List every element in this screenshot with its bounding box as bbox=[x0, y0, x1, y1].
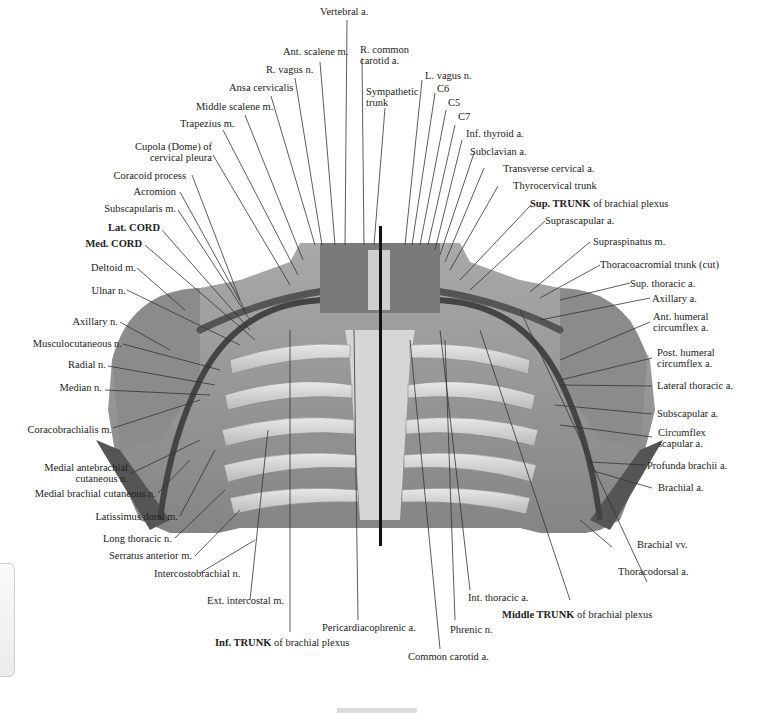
label-profunda-brachii-a: Profunda brachii a. bbox=[647, 460, 727, 472]
label-lateral-thoracic-a: Lateral thoracic a. bbox=[657, 380, 733, 392]
label-axillary-n: Axillary n. bbox=[50, 316, 118, 328]
label-subscapularis-m: Subscapularis m. bbox=[80, 203, 176, 215]
label-phrenic-n: Phrenic n. bbox=[450, 624, 493, 636]
label-ext-intercostal-m: Ext. intercostal m. bbox=[207, 595, 284, 607]
label-r-common-carotid-a: R. common carotid a. bbox=[360, 44, 409, 66]
label-sup-trunk: Sup. TRUNK of brachial plexus bbox=[530, 198, 668, 210]
label-common-carotid-a: Common carotid a. bbox=[408, 651, 489, 663]
label-thoracoacromial-trunk: Thoracoacromial trunk (cut) bbox=[600, 259, 719, 271]
label-ansa-cervicalis: Ansa cervicalis bbox=[229, 82, 293, 94]
label-middle-scalene-m: Middle scalene m. bbox=[196, 101, 273, 113]
label-ant-humeral-circumflex-a: Ant. humeral circumflex a. bbox=[653, 311, 708, 333]
label-deltoid-m: Deltoid m. bbox=[70, 262, 136, 274]
label-suprascapular-a: Suprascapular a. bbox=[545, 215, 614, 227]
label-transverse-cervical-a: Transverse cervical a. bbox=[503, 163, 594, 175]
label-med-cord: Med. CORD bbox=[70, 238, 142, 250]
label-coracoid-process: Coracoid process bbox=[80, 170, 186, 182]
label-medial-brachial-cutaneous-n: Medial brachial cutaneous n. bbox=[20, 488, 156, 500]
label-ulnar-n: Ulnar n. bbox=[70, 285, 126, 297]
label-ant-scalene-m: Ant. scalene m. bbox=[283, 46, 348, 58]
label-cupola-cervical-pleura: Cupola (Dome) of cervical pleura bbox=[100, 141, 212, 163]
label-inf-thyroid-a: Inf. thyroid a. bbox=[466, 128, 524, 140]
label-vertebral-a: Vertebral a. bbox=[320, 6, 368, 18]
label-supraspinatus-m: Supraspinatus m. bbox=[593, 236, 665, 248]
label-thyrocervical-trunk: Thyrocervical trunk bbox=[513, 180, 597, 192]
label-intercostobrachial-n: Intercostobrachial n. bbox=[154, 568, 240, 580]
label-radial-n: Radial n. bbox=[40, 359, 106, 371]
label-musculocutaneous-n: Musculocutaneous n. bbox=[10, 338, 122, 350]
label-c7: C7 bbox=[458, 111, 470, 123]
label-pericardiacophrenic-a: Pericardiacophrenic a. bbox=[322, 622, 416, 634]
horizontal-scroll-thumb[interactable] bbox=[337, 708, 417, 713]
label-acromion: Acromion bbox=[100, 186, 176, 198]
label-lat-cord: Lat. CORD bbox=[90, 222, 160, 234]
label-l-vagus-n: L. vagus n. bbox=[425, 70, 472, 82]
label-axillary-a: Axillary a. bbox=[652, 293, 697, 305]
label-post-humeral-circumflex-a: Post. humeral circumflex a. bbox=[657, 347, 715, 369]
side-panel-tab[interactable] bbox=[0, 563, 15, 677]
label-thoracodorsal-a: Thoracodorsal a. bbox=[618, 566, 689, 578]
label-middle-trunk: Middle TRUNK of brachial plexus bbox=[502, 609, 652, 621]
label-subclavian-a: Subclavian a. bbox=[470, 146, 527, 158]
label-latissimus-dorsi-m: Latissimus dorsi m. bbox=[80, 511, 178, 523]
label-long-thoracic-n: Long thoracic n. bbox=[90, 533, 172, 545]
label-r-vagus-n: R. vagus n. bbox=[266, 64, 313, 76]
midline-divider bbox=[379, 226, 382, 546]
label-serratus-anterior-m: Serratus anterior m. bbox=[90, 550, 192, 562]
label-c5: C5 bbox=[448, 97, 460, 109]
label-c6: C6 bbox=[437, 83, 449, 95]
label-median-n: Median n. bbox=[40, 382, 102, 394]
label-medial-antebrachial-cutaneous-n: Medial antebrachial cutaneous n. bbox=[20, 462, 128, 484]
label-sympathetic-trunk: Sympathetic trunk bbox=[366, 86, 419, 108]
label-subscapular-a: Subscapular a. bbox=[657, 408, 718, 420]
label-coracobrachialis-m: Coracobrachialis m. bbox=[0, 424, 112, 436]
label-brachial-vv: Brachial vv. bbox=[637, 539, 688, 551]
label-sup-thoracic-a: Sup. thoracic a. bbox=[630, 278, 695, 290]
label-int-thoracic-a: Int. thoracic a. bbox=[468, 592, 529, 604]
figure-stage: Vertebral a. Ant. scalene m. R. common c… bbox=[0, 0, 759, 714]
label-brachial-a: Brachial a. bbox=[658, 482, 703, 494]
label-inf-trunk: Inf. TRUNK of brachial plexus bbox=[215, 637, 349, 649]
label-trapezius-m: Trapezius m. bbox=[180, 118, 234, 130]
label-circumflex-scapular-a: Circumflex scapular a. bbox=[658, 427, 706, 449]
